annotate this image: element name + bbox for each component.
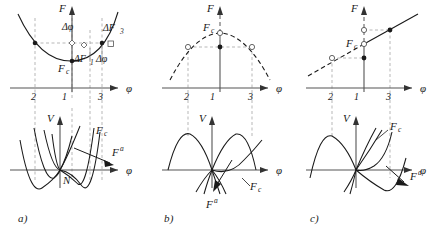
marker-filled-center — [218, 45, 223, 50]
svg-text:F: F — [409, 170, 417, 182]
F-axis-arrow — [361, 6, 367, 15]
phi-axis-label: φ — [276, 82, 282, 94]
phi-axis-label: φ — [126, 82, 132, 94]
label-Fc-top: F c — [202, 21, 215, 35]
annotation-delta-f3: ΔF 3 — [102, 22, 124, 36]
annotation-delta-phi-upper: Δφ — [61, 21, 74, 32]
svg-text:c: c — [354, 42, 358, 51]
F-axis-arrow — [217, 6, 223, 15]
phi-axis-bottom-arrow — [110, 167, 118, 173]
svg-text:Δφ: Δφ — [61, 21, 74, 32]
panel-c-bottom-chart: φ V F — [306, 100, 426, 194]
label-Fc-bottom: F c — [249, 180, 262, 194]
marker-open-phi3 — [249, 44, 254, 49]
figure-three-panel-force-potential: φ F — [0, 0, 438, 230]
marker-filled-phi3 — [100, 41, 105, 46]
marker-open-upper — [361, 27, 366, 32]
phi-axis-bottom-label: φ — [276, 164, 282, 176]
potential-hump-right — [212, 134, 256, 170]
potential-curve-critical — [212, 140, 262, 172]
svg-text:c: c — [398, 125, 402, 134]
label-Fa-bottom: F a — [409, 168, 422, 182]
panel-b: φ F F c 2 1 — [146, 0, 292, 230]
marker-filled-phi2 — [33, 41, 38, 46]
Fc-leader-line — [376, 130, 388, 140]
potential-hump-left — [310, 136, 356, 178]
V-axis-label: V — [47, 112, 55, 124]
marker-filled-phi3 — [388, 28, 393, 33]
potential-well-right — [356, 158, 406, 191]
phi-axis-bottom-label: φ — [126, 164, 132, 176]
tick-label-1: 1 — [62, 91, 67, 102]
label-Fc-bottom: F c — [95, 124, 108, 138]
panel-b-caption: b) — [164, 212, 174, 224]
F-axis-label: F — [206, 2, 214, 14]
svg-text:F: F — [202, 21, 210, 33]
svg-text:F: F — [389, 120, 397, 132]
phi-axis-arrow — [260, 85, 268, 91]
svg-text:c: c — [104, 129, 108, 138]
label-Fc-bottom: F c — [389, 120, 402, 134]
svg-text:a: a — [418, 168, 422, 177]
marker-filled-center — [362, 56, 367, 61]
svg-text:Δφ: Δφ — [95, 53, 108, 64]
panel-b-top-chart: φ F F c 2 1 — [162, 2, 282, 102]
svg-text:c: c — [211, 26, 215, 35]
svg-text:ΔF: ΔF — [73, 53, 87, 64]
marker-open-square-df3 — [108, 41, 114, 47]
tick-label-1: 1 — [354, 91, 359, 102]
svg-text:3: 3 — [119, 27, 124, 36]
Fa-arrow-head — [104, 160, 114, 167]
marker-open-diamond-center — [69, 40, 75, 46]
V-axis-arrow — [57, 116, 63, 125]
label-Fa-bottom: F a — [205, 196, 218, 210]
annotation-fc-top: F c — [57, 62, 70, 76]
panel-b-svg: φ F F c 2 1 — [146, 0, 292, 230]
label-Fc-top: F c — [345, 37, 358, 51]
marker-open-phi2 — [185, 44, 190, 49]
tick-label-1: 1 — [210, 91, 215, 102]
svg-text:a: a — [120, 144, 124, 153]
marker-open-apex-fc — [217, 30, 222, 35]
panel-c-caption: c) — [310, 212, 319, 224]
V-axis-label: V — [199, 112, 207, 124]
panel-a: φ F — [0, 0, 146, 230]
potential-curve-critical — [356, 132, 392, 171]
svg-text:F: F — [345, 37, 353, 49]
label-Fa-bottom: F a — [111, 144, 124, 158]
F-axis-arrow — [69, 6, 75, 15]
F-axis-label: F — [58, 2, 66, 14]
Fa-arrow-head — [396, 178, 409, 186]
svg-text:1: 1 — [90, 58, 94, 67]
marker-open-phi2 — [329, 55, 334, 60]
annotation-delta-phi-right: Δφ — [95, 53, 108, 64]
panel-b-bottom-chart: φ V F — [162, 100, 282, 210]
svg-text:ΔF: ΔF — [102, 22, 116, 33]
panel-a-top-chart: φ F — [10, 2, 132, 102]
F-axis-label: F — [350, 2, 358, 14]
svg-text:c: c — [66, 67, 70, 76]
svg-text:F: F — [111, 146, 119, 158]
V-axis-arrow — [353, 116, 359, 125]
phi-axis-label: φ — [420, 82, 426, 94]
panel-c-top-chart: φ F F c — [306, 2, 426, 102]
panel-a-svg: φ F — [0, 0, 146, 230]
svg-text:c: c — [258, 185, 262, 194]
panel-c: φ F F c — [292, 0, 438, 230]
svg-text:F: F — [57, 62, 65, 74]
svg-text:F: F — [249, 180, 257, 192]
svg-text:a: a — [214, 196, 218, 205]
svg-text:F: F — [205, 198, 213, 210]
V-axis-arrow — [209, 116, 215, 125]
potential-hump-left — [168, 134, 212, 170]
potential-curve-steep-2 — [350, 130, 382, 194]
Fa-arrow-line — [216, 160, 232, 186]
phi-axis-arrow — [404, 85, 412, 91]
phi-axis-arrow — [110, 85, 118, 91]
marker-open-fc — [361, 41, 366, 46]
svg-text:F: F — [95, 124, 103, 136]
panel-a-bottom-chart: φ V F c F a — [10, 100, 132, 189]
label-N-origin: N — [62, 174, 71, 186]
phi-axis-bottom-arrow — [260, 167, 268, 173]
Fc-leader-line — [242, 178, 250, 186]
